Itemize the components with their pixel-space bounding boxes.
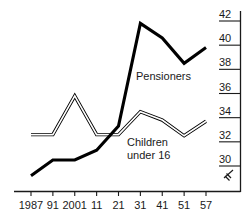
- y-tick-label: 36: [219, 81, 231, 93]
- y-tick-label: 40: [219, 32, 231, 44]
- x-tick-label: 11: [91, 199, 102, 211]
- y-tick-label: 42: [219, 8, 231, 20]
- y-tick-label: 32: [219, 129, 231, 141]
- x-tick-label: 41: [156, 199, 168, 211]
- y-tick-label: 38: [219, 56, 231, 68]
- y-tick-label: 30: [219, 153, 231, 165]
- pensioners-annotation: Pensioners: [136, 70, 192, 82]
- children-annotation-line1: Children: [127, 136, 168, 148]
- x-tick-label: 57: [200, 199, 212, 211]
- children-annotation-line2: under 16: [127, 149, 170, 161]
- x-tick-label: 51: [178, 199, 190, 211]
- x-tick-label: 31: [134, 199, 146, 211]
- line-chart: 30323436384042 1987912001112131415157 Pe…: [0, 0, 247, 214]
- x-tick-label: 91: [47, 199, 59, 211]
- y-tick-label: 34: [219, 105, 231, 117]
- x-tick-label: 2001: [63, 199, 87, 211]
- x-tick-label-group: 1987912001112131415157: [19, 199, 212, 211]
- chart-svg: 30323436384042 1987912001112131415157 Pe…: [0, 0, 247, 214]
- x-tick-label: 21: [112, 199, 124, 211]
- x-tick-label: 1987: [19, 199, 43, 211]
